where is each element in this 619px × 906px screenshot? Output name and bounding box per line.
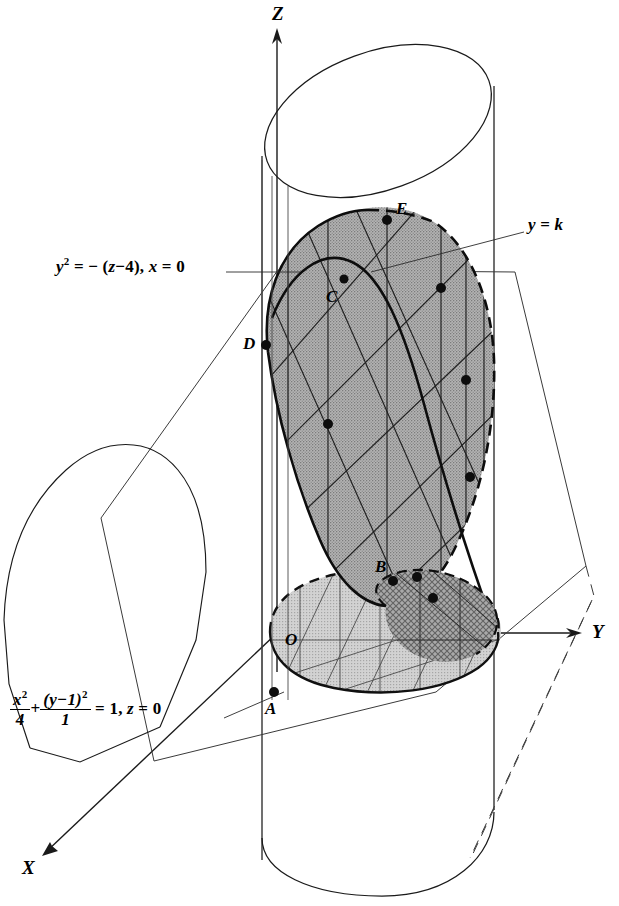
point-label-C: C [326, 288, 337, 305]
point-dot-E [382, 215, 392, 225]
frac2-denominator: 1 [40, 710, 90, 728]
point-dot-D [261, 340, 271, 350]
eq-minus-four: −4 [115, 257, 134, 276]
eq-y: y [56, 257, 64, 276]
frac-numerator: x2 [10, 691, 30, 710]
parabola-chord-right [160, 572, 206, 727]
point-dot-f2 [323, 419, 333, 429]
eq-z-equals-zero: = 0 [134, 699, 162, 718]
parabola-base [30, 727, 160, 762]
point-dot-f4 [465, 472, 475, 482]
annotation-plane-label: y = k [528, 216, 563, 233]
plane-k: k [555, 215, 564, 234]
axis-label-z: Z [272, 4, 284, 23]
eq-operator: = − ( [69, 257, 108, 276]
eq-z2: z [127, 699, 134, 718]
point-dot-f3 [461, 375, 471, 385]
point-dot-f5 [412, 572, 422, 582]
point-label-B: B [375, 558, 386, 575]
eq-plus: + [30, 699, 40, 718]
x-axis-arrow [42, 842, 58, 856]
frac-num-x: x [13, 690, 22, 709]
cylinder-top-rim [244, 16, 513, 226]
frac2-num-exp: 2 [82, 688, 88, 700]
frac2-numerator: (y−1)2 [40, 691, 90, 710]
point-label-O: O [285, 631, 297, 648]
eq-equals-one: = 1, [91, 699, 127, 718]
point-dot-B [388, 576, 398, 586]
fraction-x-squared-over-4: x2 4 [10, 691, 30, 728]
point-dot-C [340, 275, 349, 284]
plane-equals: = [536, 215, 555, 234]
figure-graphic [0, 0, 619, 906]
frac2-num-text: (y−1) [43, 690, 82, 709]
eq-close-paren: ), [134, 257, 149, 276]
point-dot-f6 [428, 593, 438, 603]
annotation-ellipse-equation: x2 4 + (y−1)2 1 = 1, z = 0 [10, 692, 161, 729]
point-dot-f1 [436, 283, 446, 293]
axis-label-x: X [22, 858, 35, 877]
x-axis-line [46, 633, 277, 852]
frac-denominator: 4 [10, 710, 30, 728]
axis-label-y: Y [592, 622, 604, 641]
parabola-curve [4, 445, 206, 621]
plane-right-edge [515, 272, 586, 566]
frac-num-exp: 2 [22, 688, 28, 700]
fraction-y-minus-1-squared-over-1: (y−1)2 1 [40, 691, 90, 728]
point-label-A: A [265, 700, 276, 717]
point-dot-A [269, 687, 279, 697]
eq-equals-zero: = 0 [157, 257, 185, 276]
cylinder-bottom-arc [262, 812, 494, 896]
calculus-figure: Z Y X A B C D E O y2 = − (z−4), x = 0 x2… [0, 0, 619, 906]
point-label-E: E [396, 200, 407, 217]
plane-y: y [528, 215, 536, 234]
annotation-parabola-equation: y2 = − (z−4), x = 0 [56, 258, 185, 275]
point-label-D: D [243, 335, 255, 352]
